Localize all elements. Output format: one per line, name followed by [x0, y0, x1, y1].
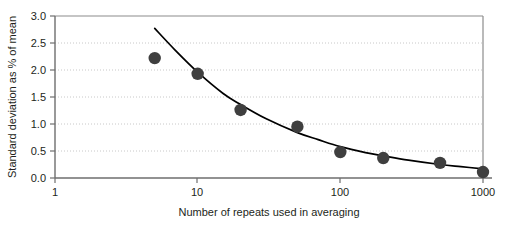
data-point: [477, 166, 489, 178]
chart-figure: 3.0 2.5 2.0 1.5 1.0 0.5 0.0 1 10 100 100…: [0, 0, 514, 229]
data-point-markers: [149, 52, 490, 178]
x-tick-label-1000: 1000: [471, 186, 495, 198]
data-point: [334, 146, 346, 158]
data-point: [149, 52, 161, 64]
data-point: [377, 152, 389, 164]
y-tick-label-2.0: 2.0: [31, 64, 46, 76]
y-tick-label-3.0: 3.0: [31, 10, 46, 22]
data-point: [434, 157, 446, 169]
y-tick-label-2.5: 2.5: [31, 37, 46, 49]
gridlines: [55, 43, 483, 151]
x-tick-label-100: 100: [331, 186, 349, 198]
x-axis-title: Number of repeats used in averaging: [179, 206, 360, 218]
axes: [55, 16, 492, 178]
y-tick-label-1.5: 1.5: [31, 91, 46, 103]
y-tick-label-0.0: 0.0: [31, 172, 46, 184]
fitted-curve-line: [155, 28, 483, 168]
x-tick-marks: [55, 178, 483, 183]
x-tick-label-1: 1: [52, 186, 58, 198]
data-point: [234, 104, 246, 116]
scatter-plot: 3.0 2.5 2.0 1.5 1.0 0.5 0.0 1 10 100 100…: [0, 0, 514, 229]
data-point: [291, 121, 303, 133]
x-tick-label-10: 10: [191, 186, 203, 198]
y-tick-label-0.5: 0.5: [31, 145, 46, 157]
y-tick-label-1.0: 1.0: [31, 118, 46, 130]
y-tick-marks: [50, 16, 55, 178]
y-axis-title: Standard deviation as % of mean: [6, 16, 18, 178]
data-point: [191, 68, 203, 80]
